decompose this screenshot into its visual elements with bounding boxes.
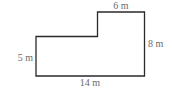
bottom-side-label: 14 m [80, 77, 101, 88]
right-side-label: 8 m [148, 38, 164, 49]
l-shape-diagram: 6 m 8 m 5 m 14 m [0, 0, 173, 91]
top-side-label: 6 m [113, 0, 129, 11]
l-shape-outline [36, 12, 145, 76]
left-side-label: 5 m [18, 52, 34, 63]
